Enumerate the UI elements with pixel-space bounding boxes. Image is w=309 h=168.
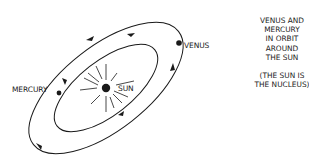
sun-label: SUN — [118, 85, 134, 93]
mercury-icon — [57, 91, 62, 96]
caption-line: AROUND — [246, 44, 309, 53]
caption-line: VENUS AND — [246, 16, 309, 25]
caption-line: IN ORBIT — [246, 34, 309, 43]
mercury-label: MERCURY — [12, 86, 47, 94]
diagram-caption: VENUS AND MERCURY IN ORBIT AROUND THE SU… — [246, 16, 309, 89]
venus-label: VENUS — [184, 42, 209, 50]
caption-line: THE SUN — [246, 53, 309, 62]
caption-line: MERCURY — [246, 25, 309, 34]
caption-note-line: THE NUCLEUS) — [246, 80, 309, 89]
sun-icon — [102, 84, 110, 92]
caption-note-line: (THE SUN IS — [246, 71, 309, 80]
venus-icon — [176, 40, 182, 46]
